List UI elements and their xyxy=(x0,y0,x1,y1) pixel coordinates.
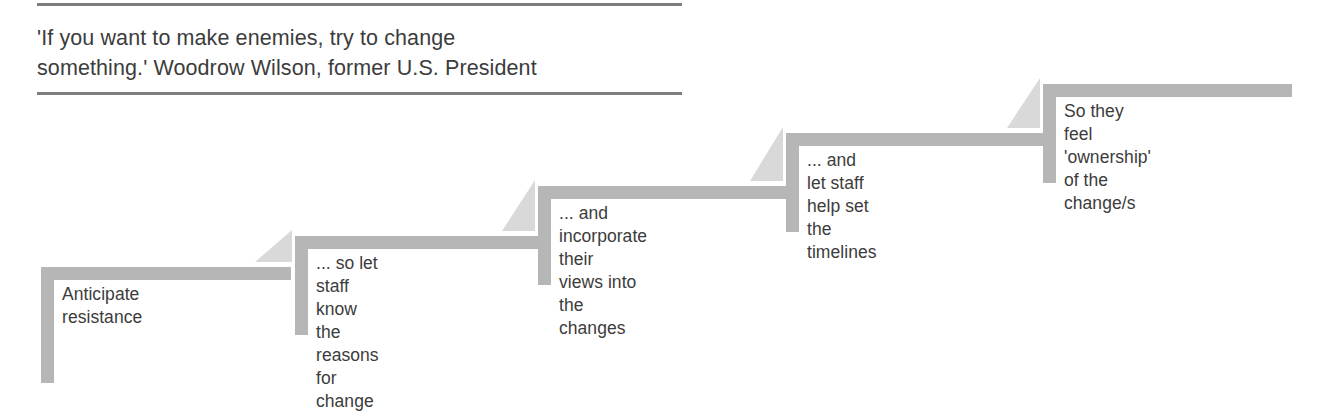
step-3-label: ... and incorporate their views into the… xyxy=(559,202,647,340)
step-3-notch-triangle-icon xyxy=(750,127,783,181)
step-2-notch-triangle-icon xyxy=(502,180,535,231)
step-4-top-bar xyxy=(786,133,1043,146)
step-1-notch-triangle-icon xyxy=(255,230,292,262)
step-3-left-bar xyxy=(538,186,551,285)
step-5-label: So they feel 'ownership' of the change/s xyxy=(1064,100,1151,215)
step-1-label: Anticipate resistance xyxy=(62,283,142,329)
step-4-left-bar xyxy=(786,133,799,232)
step-4-notch-triangle-icon xyxy=(1007,78,1040,128)
step-5-left-bar xyxy=(1043,84,1056,183)
step-2-top-bar xyxy=(295,236,538,249)
step-5-top-bar xyxy=(1043,84,1292,97)
step-2-label: ... so let staff know the reasons for ch… xyxy=(316,252,379,413)
step-2-left-bar xyxy=(295,236,308,335)
step-1-top-bar xyxy=(41,267,291,280)
step-1-left-bar xyxy=(41,267,54,383)
step-3-top-bar xyxy=(538,186,786,199)
step-4-label: ... and let staff help set the timelines xyxy=(807,149,877,264)
